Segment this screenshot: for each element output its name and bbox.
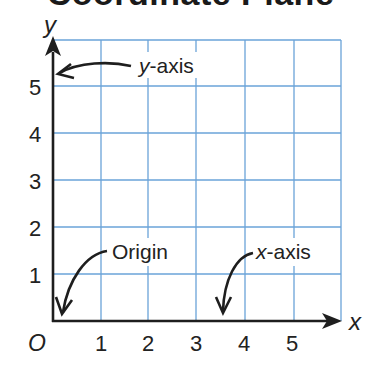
y-tick-5: 5 [29,75,41,100]
callout-y-axis: y-axis [58,52,210,78]
callout-origin: Origin [56,238,190,314]
y-tick-3: 3 [29,169,41,194]
x-tick-2: 2 [142,331,154,356]
callout-origin-text: Origin [112,240,168,263]
y-tick-2: 2 [29,216,41,241]
svg-text:x-axis: x-axis [255,240,311,263]
coordinate-plane: y x O 5 4 3 2 1 1 2 3 4 5 y-axis Origin … [0,0,381,370]
y-tick-1: 1 [29,263,41,288]
x-tick-5: 5 [286,331,298,356]
y-tick-labels: 5 4 3 2 1 [29,75,41,288]
svg-text:y-axis: y-axis [137,54,194,77]
y-axis-name: y [42,11,58,38]
origin-label: O [28,330,46,356]
callout-y-axis-text: -axis [150,54,194,77]
y-axis-line [45,36,61,322]
x-tick-4: 4 [238,331,250,356]
x-tick-1: 1 [95,331,107,356]
x-axis-line [52,313,342,329]
callout-x-axis-text: -axis [267,240,311,263]
x-axis-name: x [348,308,362,335]
y-tick-4: 4 [29,122,41,147]
callout-x-axis: x-axis [216,238,328,313]
x-tick-labels: 1 2 3 4 5 [95,331,298,356]
grid [53,40,341,321]
x-tick-3: 3 [190,331,202,356]
